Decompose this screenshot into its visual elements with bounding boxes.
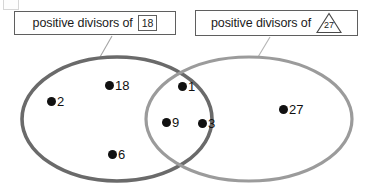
divisor-label: 3 [208, 117, 215, 130]
divisor-label: 9 [172, 116, 179, 129]
leader-lines [100, 36, 270, 57]
divisor-label: 18 [115, 79, 129, 92]
divisor-dot [279, 105, 288, 114]
label-left-set-text: positive divisors of [33, 17, 133, 30]
label-right-set-text: positive divisors of [211, 17, 311, 30]
label-right-set-value: 27 [316, 21, 342, 30]
label-box-left-set: positive divisors of 18 [14, 11, 176, 35]
divisor-dot [105, 81, 114, 90]
leader-line-left [100, 36, 112, 57]
divisor-label: 27 [289, 103, 303, 116]
divisor-dot [47, 97, 56, 106]
triangle-icon: 27 [316, 12, 342, 34]
divisor-dot [178, 82, 187, 91]
label-box-right-set: positive divisors of 27 [195, 10, 358, 36]
label-left-set-value: 18 [138, 15, 158, 32]
divisor-label: 1 [188, 80, 195, 93]
divisor-label: 2 [57, 95, 64, 108]
leader-line-right [258, 37, 270, 57]
divisor-dot [108, 150, 117, 159]
venn-diagram-figure: positive divisors of 18 positive divisor… [0, 0, 366, 188]
divisor-dot [162, 118, 171, 127]
ellipse-left-set [22, 57, 212, 181]
divisor-dot [198, 119, 207, 128]
divisor-label: 6 [118, 148, 125, 161]
